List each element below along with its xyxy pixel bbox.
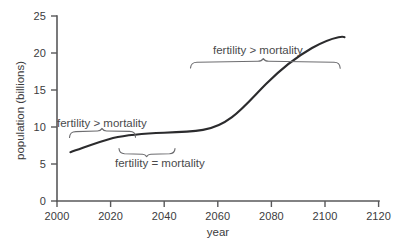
annotation-right-fertility-greater: fertility > mortality bbox=[213, 44, 303, 56]
x-tick-label-2120: 2120 bbox=[357, 210, 401, 222]
population-projection-chart: 0 5 10 15 20 25 2000 2020 2040 2060 2080… bbox=[0, 0, 408, 248]
y-axis-ticks bbox=[51, 16, 57, 201]
y-tick-label-25: 25 bbox=[24, 10, 46, 22]
x-tick-label-2080: 2080 bbox=[249, 210, 293, 222]
x-tick-label-2000: 2000 bbox=[35, 210, 79, 222]
brace-right bbox=[191, 59, 341, 69]
x-tick-label-2020: 2020 bbox=[89, 210, 133, 222]
x-tick-label-2040: 2040 bbox=[142, 210, 186, 222]
y-axis-title: population (billions) bbox=[14, 61, 26, 160]
x-tick-label-2100: 2100 bbox=[303, 210, 347, 222]
y-tick-label-0: 0 bbox=[24, 195, 46, 207]
population-curve bbox=[70, 37, 344, 152]
annotation-middle-fertility-equal: fertility = mortality bbox=[115, 157, 205, 169]
annotation-left-fertility-greater: fertility > mortality bbox=[57, 117, 147, 129]
x-axis-title: year bbox=[196, 226, 240, 238]
y-tick-label-20: 20 bbox=[24, 47, 46, 59]
x-tick-label-2060: 2060 bbox=[196, 210, 240, 222]
y-tick-label-15: 15 bbox=[24, 84, 46, 96]
y-tick-label-5: 5 bbox=[24, 158, 46, 170]
brace-middle bbox=[119, 149, 175, 157]
y-tick-label-10: 10 bbox=[24, 121, 46, 133]
x-axis-ticks bbox=[57, 201, 379, 207]
